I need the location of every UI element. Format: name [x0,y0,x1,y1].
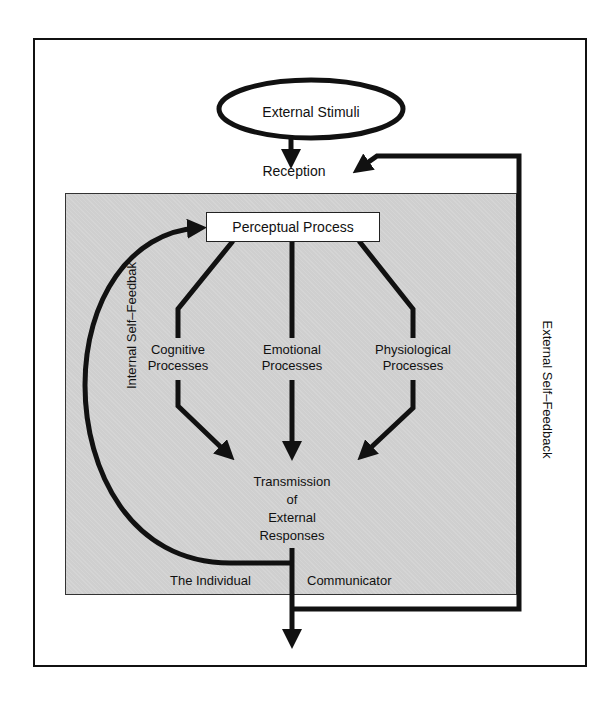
transmission-line4: Responses [236,527,348,545]
internal-feedback-label: Internal Self–Feedbak [124,246,139,406]
perceptual-process-label: Perceptual Process [232,219,353,235]
reception-label: Reception [254,163,334,179]
cognitive-line1: Cognitive [128,342,228,358]
cognitive-line2: Processes [128,358,228,374]
container-label-right: Communicator [307,573,417,589]
cognitive-to-transmission-arrow [178,380,228,454]
transmission-line1: Transmission [236,473,348,491]
container-label-left: The Individual [170,573,280,589]
cognitive-processes-node: Cognitive Processes [128,342,228,374]
external-feedback-label: External Self–Feedback [540,305,555,475]
transmission-line3: External [236,509,348,527]
emotional-line1: Emotional [242,342,342,358]
physiological-processes-node: Physiological Processes [358,342,468,374]
transmission-node: Transmission of External Responses [236,473,348,545]
perceptual-process-box: Perceptual Process [206,212,380,242]
perceptual-to-physiological-line [359,241,413,338]
external-stimuli-label: External Stimuli [218,104,404,120]
transmission-line2: of [236,491,348,509]
emotional-processes-node: Emotional Processes [242,342,342,374]
physiological-to-transmission-arrow [364,380,413,454]
emotional-line2: Processes [242,358,342,374]
perceptual-to-cognitive-line [178,241,233,338]
physiological-line1: Physiological [358,342,468,358]
physiological-line2: Processes [358,358,468,374]
